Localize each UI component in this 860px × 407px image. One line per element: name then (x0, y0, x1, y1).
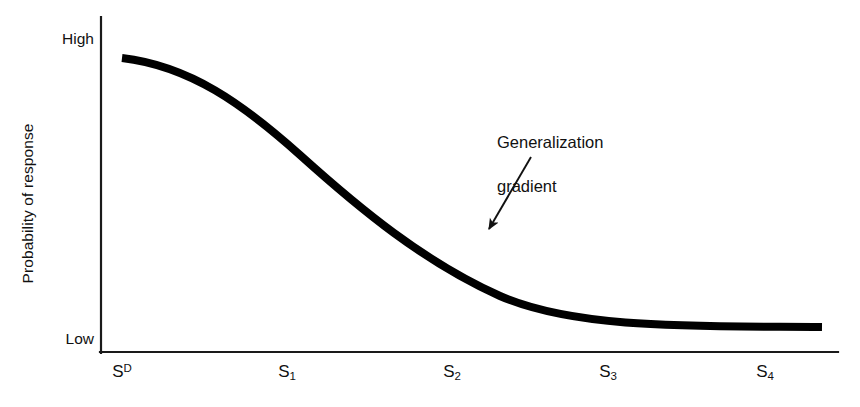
annotation-arrow-icon (489, 157, 531, 229)
plot-area (0, 0, 860, 407)
generalization-gradient-chart: Probability of response High Low SD S1 S… (0, 0, 860, 407)
generalization-gradient-curve (122, 58, 822, 327)
